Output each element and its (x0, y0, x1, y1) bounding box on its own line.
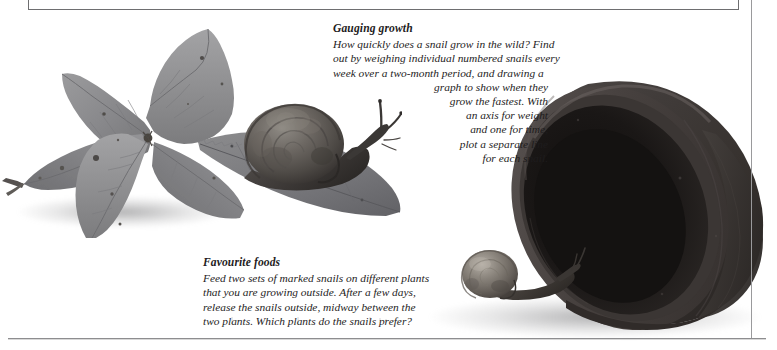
scanned-page: Gauging growth How quickly does a snail … (0, 0, 777, 350)
caption-gauging-growth-line-9: for each snail. (333, 151, 548, 165)
caption-gauging-growth-line-5: grow the fastest. With (333, 94, 548, 108)
caption-gauging-growth: Gauging growth How quickly does a snail … (333, 22, 548, 165)
caption-gauging-growth-line-3: week over a two-month period, and drawin… (333, 66, 548, 80)
caption-gauging-growth-line-6: an axis for weight (333, 108, 548, 122)
caption-favourite-foods-line-1: Feed two sets of marked snails on differ… (203, 271, 443, 285)
caption-gauging-growth-heading: Gauging growth (333, 22, 548, 36)
caption-gauging-growth-line-2: out by weighing individual numbered snai… (333, 51, 548, 65)
caption-favourite-foods-line-3: release the snails outside, midway betwe… (203, 300, 443, 314)
caption-favourite-foods-line-2: that you are growing outside. After a fe… (203, 285, 443, 299)
caption-gauging-growth-line-8: plot a separate line (333, 137, 548, 151)
caption-favourite-foods-line-4: two plants. Which plants do the snails p… (203, 314, 443, 328)
right-border-rule (751, 0, 752, 339)
bottom-border-rule-shadow (8, 339, 766, 340)
caption-gauging-growth-line-1: How quickly does a snail grow in the wil… (333, 37, 548, 51)
caption-favourite-foods: Favourite foods Feed two sets of marked … (203, 256, 443, 328)
caption-gauging-growth-line-7: and one for time, (333, 122, 548, 136)
top-border-box (28, 0, 739, 10)
garden-snail-on-pot-rim (456, 246, 586, 314)
caption-favourite-foods-heading: Favourite foods (203, 256, 443, 270)
caption-gauging-growth-line-4: graph to show when they (333, 80, 548, 94)
